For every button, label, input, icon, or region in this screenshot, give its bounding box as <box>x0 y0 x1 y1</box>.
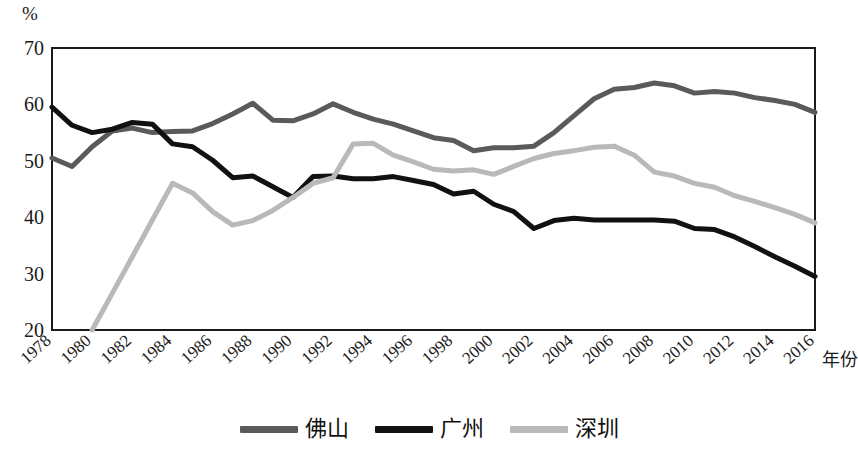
legend-label: 广州 <box>440 418 484 440</box>
x-axis-tick-label: 2008 <box>619 331 657 368</box>
legend-label: 佛山 <box>305 418 349 440</box>
y-axis-tick-labels: 203040506070 <box>24 37 44 341</box>
chart-legend: 佛山广州深圳 <box>0 418 858 440</box>
x-axis-tick-label: 2000 <box>458 331 496 368</box>
x-axis-tick-label: 1984 <box>137 331 175 368</box>
legend-item[interactable]: 佛山 <box>240 418 349 440</box>
data-series-group <box>52 83 815 330</box>
x-axis-tick-label: 1996 <box>378 331 416 368</box>
x-axis-tick-labels: 1978198019821984198619881990199219941996… <box>17 331 818 368</box>
x-axis-tick-label: 1978 <box>17 331 55 368</box>
y-axis-tick-label: 30 <box>24 263 44 285</box>
x-axis-tick-label: 1990 <box>258 331 296 368</box>
x-axis-tick-label: 2014 <box>740 331 778 368</box>
x-axis-tick-label: 1986 <box>177 331 215 368</box>
x-axis-tick-label: 2012 <box>699 331 737 368</box>
y-axis-tick-label: 50 <box>24 150 44 172</box>
legend-item[interactable]: 广州 <box>375 418 484 440</box>
legend-color-swatch <box>510 426 568 433</box>
y-axis-tick-label: 40 <box>24 206 44 228</box>
x-axis-tick-label: 1980 <box>57 331 95 368</box>
chart-figure: % 203040506070 1978198019821984198619881… <box>0 0 858 450</box>
line-chart-plot: 203040506070 197819801982198419861988199… <box>0 0 858 418</box>
y-axis-tick-label: 70 <box>24 37 44 59</box>
y-axis-tick-label: 60 <box>24 93 44 115</box>
legend-item[interactable]: 深圳 <box>510 418 619 440</box>
x-axis-title: 年份 <box>822 350 858 370</box>
legend-label: 深圳 <box>575 418 619 440</box>
x-axis-tick-label: 1998 <box>418 331 456 368</box>
x-axis-tick-label: 1988 <box>217 331 255 368</box>
x-axis-tick-label: 1982 <box>97 331 135 368</box>
x-axis-tick-label: 2006 <box>579 331 617 368</box>
legend-color-swatch <box>375 426 433 433</box>
x-axis-tick-label: 2004 <box>539 331 577 368</box>
x-axis-tick-label: 1992 <box>298 331 336 368</box>
x-axis-tick-label: 2010 <box>659 331 697 368</box>
legend-color-swatch <box>240 426 298 433</box>
series-line <box>52 83 815 166</box>
x-axis-tick-label: 2002 <box>499 331 537 368</box>
x-axis-tick-label: 2016 <box>780 331 818 368</box>
x-axis-tick-label: 1994 <box>338 331 376 368</box>
series-line <box>92 143 815 330</box>
